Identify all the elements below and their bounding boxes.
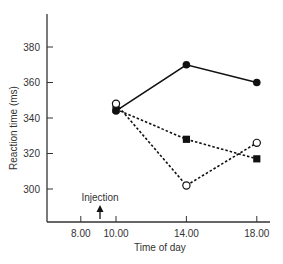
arrow-up-icon [97, 205, 104, 212]
x-tick-label: 14.00 [174, 228, 199, 239]
filled-square-marker [183, 136, 190, 143]
y-tick-label: 380 [23, 42, 40, 53]
filled-circle-solid-line [116, 65, 257, 111]
filled-circle-marker [253, 79, 261, 87]
injection-label: Injection [81, 192, 118, 203]
injection-annotation: Injection [81, 192, 118, 219]
x-tick-label: 18.00 [244, 228, 269, 239]
open-circle-marker [183, 182, 190, 189]
y-tick-label: 340 [23, 113, 40, 124]
open-circle-dashed-line [116, 104, 257, 186]
open-circle-marker [253, 139, 260, 146]
y-axis-label: Reaction time (ms) [8, 86, 19, 170]
filled-square-dashed-line [116, 109, 257, 159]
x-tick-label: 10.00 [103, 228, 128, 239]
x-tick-label: 8.00 [71, 228, 91, 239]
filled-square-marker [253, 155, 260, 162]
y-tick-label: 360 [23, 77, 40, 88]
y-tick-label: 300 [23, 184, 40, 195]
filled-circle-marker [183, 61, 191, 69]
x-axis-label: Time of day [134, 242, 186, 253]
y-tick-label: 320 [23, 148, 40, 159]
chart: 300320340360380 8.0010.0014.0018.00 Inje… [0, 0, 283, 264]
open-circle-marker [112, 100, 119, 107]
